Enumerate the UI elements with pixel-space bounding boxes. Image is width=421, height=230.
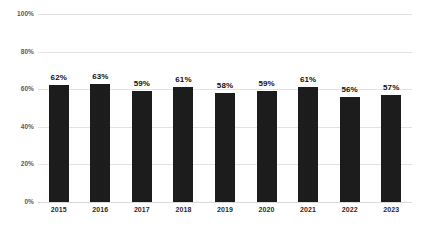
y-axis-tick-label: 80% bbox=[0, 48, 34, 55]
bar-group[interactable]: 62% bbox=[39, 14, 79, 202]
bar[interactable] bbox=[257, 91, 277, 202]
bar-value-label: 57% bbox=[383, 84, 399, 92]
x-axis: 201520162017201820192020202120222023 bbox=[38, 206, 412, 222]
bar-group[interactable]: 63% bbox=[80, 14, 120, 202]
bar-value-label: 61% bbox=[175, 76, 191, 84]
x-axis-tick-label: 2020 bbox=[247, 206, 287, 213]
x-axis-tick-label: 2021 bbox=[288, 206, 328, 213]
bar-group[interactable]: 57% bbox=[371, 14, 411, 202]
x-axis-tick-label: 2016 bbox=[80, 206, 120, 213]
bar-value-label: 56% bbox=[342, 86, 358, 94]
x-axis-tick-label: 2018 bbox=[163, 206, 203, 213]
bar[interactable] bbox=[49, 85, 69, 202]
bar[interactable] bbox=[132, 91, 152, 202]
y-axis-tick-label: 0% bbox=[0, 199, 34, 206]
x-axis-tick-label: 2017 bbox=[122, 206, 162, 213]
bar-value-label: 59% bbox=[134, 80, 150, 88]
y-axis-tick-label: 100% bbox=[0, 11, 34, 18]
gridline-0-baseline bbox=[38, 202, 412, 203]
x-axis-tick-label: 2023 bbox=[371, 206, 411, 213]
x-axis-tick-label: 2015 bbox=[39, 206, 79, 213]
bar-chart: 100% 80% 60% 40% 20% 0% 62%63%59%61%58%5… bbox=[0, 0, 421, 230]
bar-group[interactable]: 59% bbox=[122, 14, 162, 202]
bars-layer: 62%63%59%61%58%59%61%56%57% bbox=[38, 14, 412, 202]
x-axis-tick-label: 2022 bbox=[330, 206, 370, 213]
bar[interactable] bbox=[215, 93, 235, 202]
bar-group[interactable]: 61% bbox=[288, 14, 328, 202]
x-axis-tick-label: 2019 bbox=[205, 206, 245, 213]
bar[interactable] bbox=[173, 87, 193, 202]
bar-value-label: 62% bbox=[51, 74, 67, 82]
bar[interactable] bbox=[90, 84, 110, 202]
y-axis-tick-label: 40% bbox=[0, 124, 34, 131]
bar-value-label: 59% bbox=[258, 80, 274, 88]
y-axis-tick-label: 60% bbox=[0, 86, 34, 93]
bar[interactable] bbox=[381, 95, 401, 202]
bar-value-label: 58% bbox=[217, 82, 233, 90]
y-axis: 100% 80% 60% 40% 20% 0% bbox=[0, 14, 34, 202]
bar-group[interactable]: 61% bbox=[163, 14, 203, 202]
bar[interactable] bbox=[340, 97, 360, 202]
bar-group[interactable]: 59% bbox=[247, 14, 287, 202]
bar[interactable] bbox=[298, 87, 318, 202]
bar-group[interactable]: 56% bbox=[330, 14, 370, 202]
bar-group[interactable]: 58% bbox=[205, 14, 245, 202]
bar-value-label: 61% bbox=[300, 76, 316, 84]
bar-value-label: 63% bbox=[92, 73, 108, 81]
y-axis-tick-label: 20% bbox=[0, 161, 34, 168]
